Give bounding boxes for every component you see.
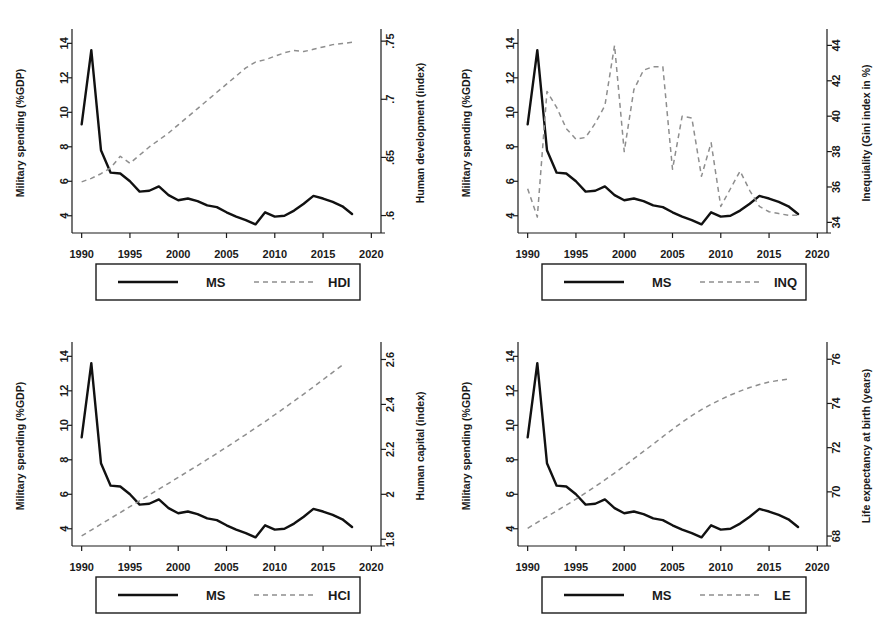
legend: MSHCI bbox=[96, 577, 360, 613]
y-ticklabel-left: 8 bbox=[58, 144, 70, 150]
y-ticklabel-left: 14 bbox=[504, 36, 516, 49]
legend: MSINQ bbox=[542, 264, 806, 300]
y-ticklabel-left: 6 bbox=[504, 178, 516, 184]
legend-label-ms: MS bbox=[652, 275, 672, 290]
y-ticklabel-left: 12 bbox=[504, 72, 516, 84]
y-axis-right: 1.822.22.42.6 bbox=[381, 342, 396, 547]
x-ticklabel: 2015 bbox=[311, 248, 335, 260]
x-ticklabel: 1995 bbox=[564, 561, 588, 573]
y-ticklabel-right: 1.8 bbox=[384, 532, 396, 547]
y-ticklabel-right: .75 bbox=[384, 33, 396, 48]
y-ticklabel-left: 8 bbox=[58, 457, 70, 463]
y-ticklabel-right: 40 bbox=[830, 110, 842, 122]
x-axis: 1990199520002005201020152020 bbox=[515, 546, 831, 573]
panel-hci: 468101214Military spending (%GDP)1.822.2… bbox=[0, 313, 446, 626]
y-axis-left: 468101214 bbox=[504, 342, 518, 546]
y-ticklabel-left: 14 bbox=[504, 349, 516, 362]
legend: MSLE bbox=[542, 577, 806, 613]
x-ticklabel: 2010 bbox=[709, 561, 733, 573]
x-axis: 1990199520002005201020152020 bbox=[69, 233, 385, 260]
y-axis-left: 468101214 bbox=[58, 342, 72, 546]
panel-le: 468101214Military spending (%GDP)6870727… bbox=[446, 313, 892, 626]
x-ticklabel: 2000 bbox=[612, 248, 636, 260]
chart-hdi: 468101214Military spending (%GDP).6.65.7… bbox=[0, 0, 446, 313]
y-axis-left: 468101214 bbox=[58, 29, 72, 233]
legend-label-secondary: INQ bbox=[774, 275, 797, 290]
x-ticklabel: 2000 bbox=[612, 561, 636, 573]
y-ticklabel-right: 38 bbox=[830, 145, 842, 157]
y-ticklabel-right: 42 bbox=[830, 75, 842, 87]
y-ticklabel-right: 72 bbox=[830, 442, 842, 454]
x-ticklabel: 1995 bbox=[118, 561, 142, 573]
y-ticklabel-left: 10 bbox=[58, 419, 70, 431]
y-ticklabel-right: 44 bbox=[830, 38, 842, 51]
y-ticklabel-right: .6 bbox=[384, 211, 396, 220]
series-line-ms bbox=[82, 50, 352, 224]
y-axis-label-left: Military spending (%GDP) bbox=[460, 382, 472, 510]
chart-inq: 468101214Military spending (%GDP)3436384… bbox=[446, 0, 892, 313]
x-ticklabel: 2020 bbox=[805, 248, 829, 260]
y-ticklabel-right: 2.6 bbox=[384, 352, 396, 367]
y-ticklabel-left: 12 bbox=[58, 385, 70, 397]
y-ticklabel-left: 4 bbox=[504, 525, 516, 532]
legend-label-secondary: LE bbox=[774, 588, 791, 603]
y-ticklabel-right: 34 bbox=[830, 215, 842, 228]
panel-inq: 468101214Military spending (%GDP)3436384… bbox=[446, 0, 892, 313]
x-ticklabel: 2020 bbox=[359, 561, 383, 573]
x-ticklabel: 2015 bbox=[311, 561, 335, 573]
x-ticklabel: 1990 bbox=[515, 561, 539, 573]
y-ticklabel-left: 6 bbox=[58, 491, 70, 497]
x-axis: 1990199520002005201020152020 bbox=[69, 546, 385, 573]
x-ticklabel: 1990 bbox=[69, 561, 93, 573]
x-ticklabel: 1990 bbox=[515, 248, 539, 260]
y-ticklabel-left: 8 bbox=[504, 457, 516, 463]
x-ticklabel: 2015 bbox=[757, 561, 781, 573]
y-ticklabel-left: 12 bbox=[504, 385, 516, 397]
y-axis-right: .6.65.7.75 bbox=[381, 29, 396, 233]
y-ticklabel-left: 4 bbox=[504, 212, 516, 219]
series-line-ms bbox=[528, 50, 798, 224]
x-ticklabel: 1995 bbox=[564, 248, 588, 260]
y-axis-right: 6870727476 bbox=[827, 342, 842, 546]
y-ticklabel-right: 2.4 bbox=[384, 396, 396, 412]
y-ticklabel-right: 36 bbox=[830, 181, 842, 193]
y-axis-right: 343638404244 bbox=[827, 29, 842, 233]
y-axis-label-right: Life expectancy at birth (years) bbox=[860, 369, 872, 524]
y-ticklabel-left: 10 bbox=[504, 419, 516, 431]
x-ticklabel: 2020 bbox=[359, 248, 383, 260]
legend-label-secondary: HDI bbox=[328, 275, 350, 290]
y-ticklabel-left: 8 bbox=[504, 144, 516, 150]
x-ticklabel: 2010 bbox=[709, 248, 733, 260]
x-ticklabel: 1990 bbox=[69, 248, 93, 260]
x-ticklabel: 1995 bbox=[118, 248, 142, 260]
y-ticklabel-right: 70 bbox=[830, 486, 842, 498]
y-axis-label-left: Military spending (%GDP) bbox=[14, 69, 26, 197]
x-ticklabel: 2005 bbox=[660, 561, 684, 573]
series-line-hdi bbox=[82, 42, 352, 182]
legend-label-secondary: HCI bbox=[328, 588, 350, 603]
y-ticklabel-right: 2 bbox=[384, 491, 396, 497]
y-ticklabel-left: 10 bbox=[58, 106, 70, 118]
legend-label-ms: MS bbox=[206, 588, 226, 603]
y-ticklabel-left: 4 bbox=[58, 212, 70, 219]
legend-label-ms: MS bbox=[206, 275, 226, 290]
x-ticklabel: 2000 bbox=[166, 248, 190, 260]
y-axis-label-left: Military spending (%GDP) bbox=[460, 69, 472, 197]
y-axis-left: 468101214 bbox=[504, 29, 518, 233]
chart-le: 468101214Military spending (%GDP)6870727… bbox=[446, 313, 892, 626]
y-ticklabel-right: 2.2 bbox=[384, 442, 396, 457]
y-ticklabel-left: 6 bbox=[504, 491, 516, 497]
x-ticklabel: 2020 bbox=[805, 561, 829, 573]
x-axis: 1990199520002005201020152020 bbox=[515, 233, 831, 260]
x-ticklabel: 2005 bbox=[660, 248, 684, 260]
y-ticklabel-right: .7 bbox=[384, 95, 396, 104]
y-axis-label-right: Inequiality (Gini index in %) bbox=[860, 64, 872, 201]
y-ticklabel-left: 10 bbox=[504, 106, 516, 118]
y-ticklabel-right: 68 bbox=[830, 530, 842, 542]
panel-hdi: 468101214Military spending (%GDP).6.65.7… bbox=[0, 0, 446, 313]
chart-hci: 468101214Military spending (%GDP)1.822.2… bbox=[0, 313, 446, 626]
x-ticklabel: 2005 bbox=[214, 248, 238, 260]
legend: MSHDI bbox=[96, 264, 360, 300]
series-line-le bbox=[528, 379, 789, 528]
y-ticklabel-left: 14 bbox=[58, 36, 70, 49]
